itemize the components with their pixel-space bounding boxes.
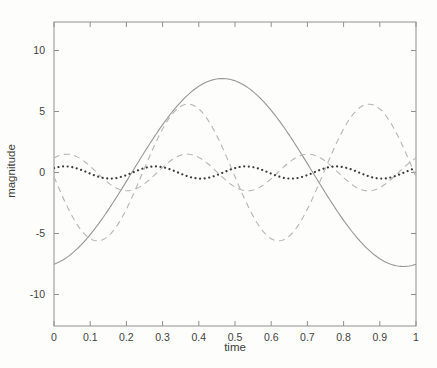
curve-sinusoid-2hz <box>54 104 416 241</box>
x-tick-label: 0.4 <box>191 331 206 343</box>
curve-sinusoid-3hz <box>54 154 416 191</box>
plot-box <box>54 22 416 326</box>
y-tick-label: -10 <box>30 288 45 300</box>
x-tick-label: 0.8 <box>336 331 351 343</box>
y-tick-label: 10 <box>33 44 45 56</box>
x-tick-label: 0.9 <box>372 331 387 343</box>
y-tick-label: -5 <box>36 227 45 239</box>
x-tick-label: 0.1 <box>83 331 98 343</box>
y-tick-label: 0 <box>39 166 45 178</box>
y-axis-label: magnitude <box>5 144 17 198</box>
magnitude-plot: 00.10.20.30.40.50.60.70.80.91 1050-5-10 … <box>0 0 437 368</box>
curves <box>54 79 416 267</box>
x-tick-label: 0.3 <box>155 331 170 343</box>
x-tick-label: 0 <box>51 331 57 343</box>
x-tick-label: 1 <box>413 331 419 343</box>
y-tick-label: 5 <box>39 105 45 117</box>
y-tick-labels: 1050-5-10 <box>30 44 45 300</box>
figure: 00.10.20.30.40.50.60.70.80.91 1050-5-10 … <box>0 0 437 368</box>
x-axis-label: time <box>224 341 246 353</box>
x-tick-label: 0.7 <box>300 331 315 343</box>
x-tick-label: 0.2 <box>119 331 134 343</box>
axis-ticks <box>54 22 416 326</box>
x-tick-label: 0.6 <box>264 331 279 343</box>
